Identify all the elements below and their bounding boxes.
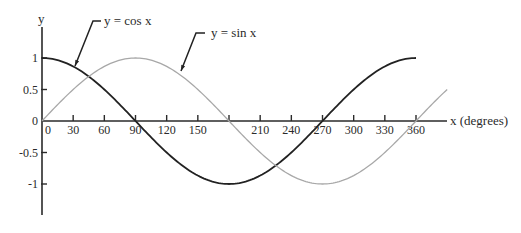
y-tick-label: 0.5	[23, 83, 38, 97]
y-tick-label: 0	[32, 114, 38, 128]
annotations: y = cos xy = sin x	[75, 13, 257, 71]
x-tick-label: 210	[251, 123, 269, 137]
series-annotation-label: y = cos x	[104, 13, 152, 28]
annotation-leader-line	[75, 21, 101, 66]
y-tick-label: -0.5	[19, 146, 38, 160]
y-tick-label: -1	[28, 177, 38, 191]
x-tick-label: 120	[158, 123, 176, 137]
annotation-leader-line	[181, 33, 205, 71]
x-tick-label: 150	[189, 123, 207, 137]
x-tick-label: 360	[407, 123, 425, 137]
series-annotation-label: y = sin x	[211, 25, 257, 40]
x-tick-label: 270	[314, 123, 332, 137]
x-tick-label: 30	[67, 123, 79, 137]
y-axis-label: y	[38, 11, 45, 26]
arrowhead-icon	[75, 60, 79, 66]
x-tick-label: 330	[376, 123, 394, 137]
axes: 030609012015021024027030033036010.50-0.5…	[19, 27, 447, 215]
x-axis-label: x (degrees)	[450, 113, 508, 128]
x-tick-label: 60	[98, 123, 110, 137]
arrowhead-icon	[181, 65, 185, 71]
trig-chart: 030609012015021024027030033036010.50-0.5…	[0, 0, 521, 233]
x-tick-label: 0	[45, 123, 51, 137]
x-tick-label: 300	[345, 123, 363, 137]
chart-canvas: 030609012015021024027030033036010.50-0.5…	[0, 0, 521, 233]
y-tick-label: 1	[32, 51, 38, 65]
x-tick-label: 240	[282, 123, 300, 137]
